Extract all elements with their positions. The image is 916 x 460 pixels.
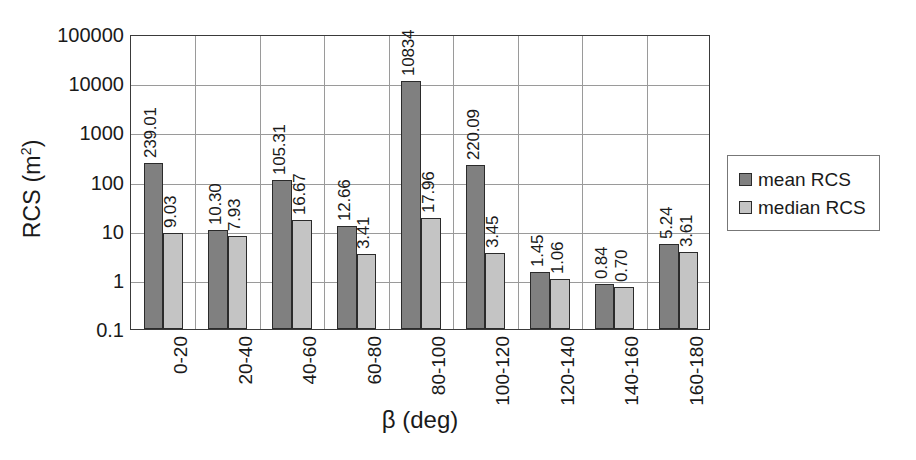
bar-median-rcs[interactable]: 3.41 [357, 254, 377, 329]
bar-median-rcs[interactable]: 16.67 [292, 220, 312, 329]
x-axis-tick-label: 60-80 [365, 336, 384, 385]
bar-median-rcs[interactable]: 3.61 [679, 252, 699, 329]
bar-group: 10.307.93 [195, 36, 259, 329]
bar-value-label: 12.66 [336, 179, 353, 221]
bar-value-label: 17.96 [420, 172, 437, 214]
x-axis-tick-labels: 0-2020-4040-6060-8080-100100-120120-1401… [130, 332, 710, 412]
legend-label-mean-rcs: mean RCS [758, 170, 851, 189]
x-axis-tick-label: 20-40 [236, 336, 255, 385]
bar-median-rcs[interactable]: 1.06 [550, 279, 570, 329]
bar-value-label: 10.30 [207, 184, 224, 226]
bar-median-rcs[interactable]: 0.70 [614, 287, 634, 329]
bar-value-label: 1.06 [549, 241, 566, 273]
bar-value-label: 3.45 [484, 216, 501, 248]
x-axis-tick-label: 120-140 [558, 336, 577, 406]
bar-median-rcs[interactable]: 3.45 [485, 253, 505, 329]
x-axis-tick-label: 0-20 [171, 336, 190, 374]
bar-value-label: 16.67 [291, 173, 308, 215]
bar-value-label: 9.03 [162, 196, 179, 228]
x-axis-tick-label: 100-120 [493, 336, 512, 406]
x-axis-tick-label: 40-60 [300, 336, 319, 385]
y-axis-tick-label: 0.1 [28, 320, 124, 340]
legend-item-median-rcs[interactable]: median RCS [739, 193, 866, 221]
bar-value-label: 105.31 [271, 125, 288, 176]
bar-value-label: 10834 [400, 30, 417, 76]
bar-group: 12.663.41 [324, 36, 388, 329]
x-axis-title: β (deg) [130, 406, 710, 434]
bar-value-label: 0.70 [613, 250, 630, 282]
bar-value-label: 1.45 [529, 235, 546, 267]
bar-value-label: 3.61 [678, 215, 695, 247]
legend-swatch-mean-rcs [739, 173, 752, 186]
bar-value-label: 5.24 [658, 207, 675, 239]
legend-label-median-rcs: median RCS [758, 198, 866, 217]
bar-group: 5.243.61 [647, 36, 711, 329]
bar-group: 1083417.96 [389, 36, 453, 329]
bar-value-label: 220.09 [465, 109, 482, 160]
y-axis-tick-label: 100 [28, 173, 124, 193]
bar-value-label: 239.01 [142, 107, 159, 158]
bar-mean-rcs[interactable]: 5.24 [659, 244, 679, 329]
x-axis-tick-label: 80-100 [429, 336, 448, 395]
x-axis-tick-label: 160-180 [687, 336, 706, 406]
bar-value-label: 0.84 [593, 246, 610, 278]
bar-group: 1.451.06 [518, 36, 582, 329]
bar-mean-rcs[interactable]: 10.30 [208, 230, 228, 329]
bar-group: 105.3116.67 [260, 36, 324, 329]
bar-mean-rcs[interactable]: 1.45 [530, 272, 550, 329]
plot-area: 239.019.0310.307.93105.3116.6712.663.411… [130, 35, 710, 330]
bar-group: 220.093.45 [453, 36, 517, 329]
y-axis-tick-label: 1 [28, 271, 124, 291]
bar-median-rcs[interactable]: 9.03 [163, 233, 183, 329]
bar-mean-rcs[interactable]: 0.84 [595, 284, 615, 329]
legend-swatch-median-rcs [739, 201, 752, 214]
x-axis-tick-label: 140-160 [622, 336, 641, 406]
bar-group: 0.840.70 [582, 36, 646, 329]
bar-median-rcs[interactable]: 17.96 [421, 218, 441, 329]
y-axis-tick-label: 10000 [28, 74, 124, 94]
bar-value-label: 3.41 [355, 216, 372, 248]
bar-mean-rcs[interactable]: 239.01 [144, 163, 164, 329]
y-axis-tick-labels: 1000001000010001001010.1 [28, 35, 124, 330]
legend-item-mean-rcs[interactable]: mean RCS [739, 165, 866, 193]
chart-legend: mean RCS median RCS [727, 155, 880, 231]
bar-median-rcs[interactable]: 7.93 [228, 236, 248, 329]
y-axis-tick-label: 100000 [28, 25, 124, 45]
y-axis-tick-label: 1000 [28, 123, 124, 143]
y-axis-tick-label: 10 [28, 222, 124, 242]
bar-value-label: 7.93 [226, 198, 243, 230]
rcs-bar-chart-figure: RCS (m2) 1000001000010001001010.1 239.01… [0, 0, 916, 460]
bar-group: 239.019.03 [131, 36, 195, 329]
